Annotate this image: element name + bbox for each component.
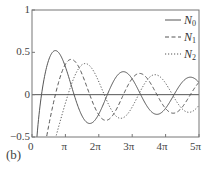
x-tick-label: 5π <box>190 140 201 152</box>
panel-label: (b) <box>6 147 21 163</box>
y-tick-label: 1 <box>25 3 31 15</box>
plot-frame <box>32 10 199 137</box>
y-tick-label: 0.5 <box>16 45 30 57</box>
x-tick-label: π <box>61 140 67 152</box>
line-chart: N0N1N2 <box>0 0 213 179</box>
series-n0-line <box>36 51 200 158</box>
legend: N0N1N2 <box>165 13 196 62</box>
plot-curves <box>36 51 200 162</box>
legend-label-n2: N2 <box>183 47 196 62</box>
y-tick-label: 0 <box>25 88 31 100</box>
legend-label-n0: N0 <box>183 13 196 28</box>
axis-ticks <box>32 10 199 137</box>
y-tick-label: −0.5 <box>10 130 30 142</box>
x-tick-label: 4π <box>157 140 168 152</box>
legend-label-n1: N1 <box>183 30 196 45</box>
x-tick-label: 3π <box>123 140 134 152</box>
x-tick-label: 2π <box>90 140 101 152</box>
